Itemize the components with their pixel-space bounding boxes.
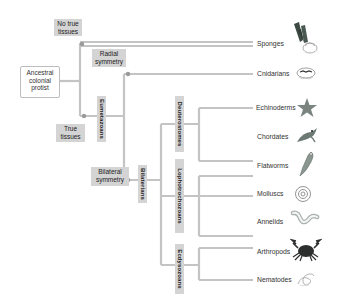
fish-icon	[295, 126, 319, 146]
jellyfish-icon	[294, 66, 318, 82]
starfish-icon	[296, 97, 318, 119]
worm-icon	[290, 210, 320, 228]
root-ancestral-colonial-protist: Ancestral colonial protist	[20, 66, 60, 98]
clade-ecdysozoans: Ecdysozoans	[175, 244, 184, 294]
taxon-echinoderms: Echinoderms	[256, 104, 296, 111]
taxon-arthropods: Arthropods	[257, 248, 290, 255]
flatworm-icon	[297, 150, 317, 178]
taxon-chordates: Chordates	[257, 133, 288, 140]
taxon-flatworms: Flatworms	[257, 162, 288, 169]
clade-eumetazoans: Eumetazoans	[97, 96, 106, 142]
clade-bilaterians: Bilaterians	[138, 165, 147, 203]
crab-icon	[290, 238, 322, 262]
taxon-sponges: Sponges	[257, 40, 284, 47]
trait-radial-symmetry: Radial symmetry	[92, 49, 126, 67]
nematode-icon	[295, 270, 317, 288]
taxon-cnidarians: Cnidarians	[257, 70, 290, 77]
taxon-molluscs: Molluscs	[257, 190, 283, 197]
snail-icon	[294, 185, 312, 203]
trait-true-tissues: True tissues	[56, 124, 85, 142]
clade-lophotrochozoans: Lophotrochozoans	[175, 159, 184, 233]
tree-lines	[0, 0, 338, 308]
trait-bilateral-symmetry: Bilateral symmetry	[91, 167, 129, 186]
node-true-tissues	[82, 114, 86, 118]
taxon-annelids: Annelids	[257, 218, 283, 225]
node-no-tissues	[80, 42, 84, 46]
sponge-icon	[290, 20, 320, 56]
node-radial	[126, 72, 130, 76]
clade-deuterostomes: Deuterostomes	[175, 96, 184, 152]
taxon-nematodes: Nematodes	[257, 276, 292, 283]
trait-no-true-tissues: No true tissues	[54, 19, 82, 36]
